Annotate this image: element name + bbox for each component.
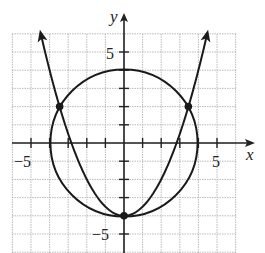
y-axis-label: y (108, 7, 118, 26)
x-axis-label: x (245, 145, 254, 164)
tick-label-y-pos5: 5 (106, 45, 114, 62)
tick-label-y-neg5: −5 (92, 226, 109, 243)
coordinate-plot: x y −5 5 5 −5 (0, 0, 265, 253)
tick-label-x-neg5: −5 (14, 153, 31, 170)
intersection-point (56, 103, 64, 111)
tick-label-x-pos5: 5 (212, 153, 220, 170)
axes (12, 20, 248, 253)
intersection-point (120, 212, 128, 220)
intersection-point (185, 103, 193, 111)
